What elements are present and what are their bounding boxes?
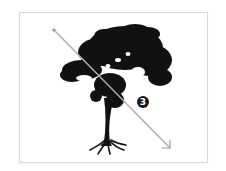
tree-roots <box>90 140 126 154</box>
step-number-badge: 3 <box>137 96 149 108</box>
tree-illustration <box>0 0 226 171</box>
tree-trunk <box>100 98 114 146</box>
tree-canopy <box>60 24 172 108</box>
